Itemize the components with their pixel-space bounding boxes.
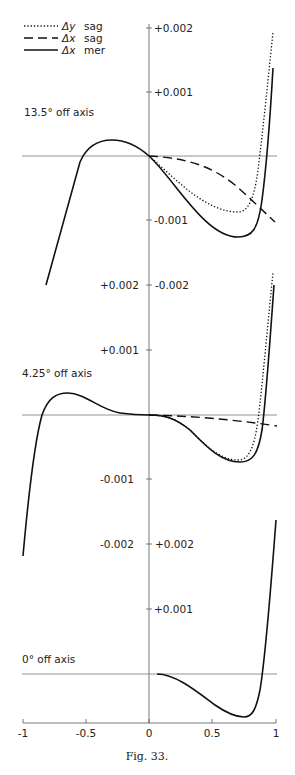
x-tick-label: 0 — [146, 727, 153, 739]
x-tick-label: 0.5 — [204, 727, 221, 739]
tick-label: -0.001 — [154, 214, 188, 226]
legend-label-dy-sag: sag — [84, 20, 103, 32]
panel-0-deg: +0.002 +0.001 0° off axis — [22, 520, 277, 717]
series-dy-sag — [149, 273, 273, 460]
tick-label: +0.002 — [155, 538, 194, 550]
tick-label-left: -0.001 — [100, 473, 134, 485]
x-axis: -1 -0.5 0 0.5 1 — [18, 719, 280, 739]
legend-label-dx-mer-symbol: Δx — [61, 44, 76, 56]
x-tick-label: -1 — [18, 727, 28, 739]
tick-label: +0.001 — [154, 603, 193, 615]
panel-title: 4.25° off axis — [22, 367, 92, 379]
tick-label: +0.002 — [154, 22, 193, 34]
tick-label-left: +0.001 — [100, 344, 139, 356]
x-tick-label: 1 — [273, 727, 280, 739]
series-dy-sag — [149, 32, 273, 212]
panel-4-25-deg: +0.002 -0.002 +0.001 -0.001 -0.002 4.25°… — [22, 273, 277, 556]
panel-title: 0° off axis — [22, 653, 75, 665]
panel-13-5-deg: +0.002 +0.001 -0.001 13.5° off axis — [22, 22, 277, 285]
tick-label: +0.001 — [154, 86, 193, 98]
tick-label-right: -0.002 — [155, 279, 189, 291]
x-tick-label: -0.5 — [76, 727, 97, 739]
legend-label-dx-sag-symbol: Δx — [61, 32, 76, 44]
legend: Δy sag Δx sag Δx mer — [24, 20, 106, 56]
figure-canvas: Δy sag Δx sag Δx mer +0.002 +0.001 -0.00… — [0, 0, 295, 775]
legend-label-dx-sag: sag — [84, 32, 103, 44]
legend-label-dy-sag-symbol: Δy — [61, 20, 76, 32]
series-dx-sag — [149, 156, 275, 222]
figure-caption: Fig. 33. — [126, 750, 169, 763]
tick-label-left: -0.002 — [100, 538, 134, 550]
series-dx-mer — [46, 68, 273, 285]
legend-label-dx-mer: mer — [84, 44, 106, 56]
panel-title: 13.5° off axis — [24, 106, 94, 118]
tick-label-left: +0.002 — [100, 279, 139, 291]
